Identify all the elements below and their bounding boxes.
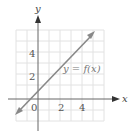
line-arrow-up-icon [87, 31, 95, 39]
function-label: y = f(x) [62, 63, 101, 74]
x-tick-4: 4 [79, 102, 85, 113]
x-axis-arrow-icon [112, 96, 120, 102]
y-axis-arrow-icon [35, 15, 41, 23]
graph: y x 0 2 4 4 2 y = f(x) [0, 0, 128, 139]
y-axis-label: y [34, 3, 41, 14]
x-axis-label: x [122, 93, 128, 104]
origin-label: 0 [31, 102, 37, 113]
x-tick-2: 2 [58, 102, 64, 113]
y-tick-4: 4 [29, 48, 35, 59]
y-axis [35, 15, 41, 131]
y-tick-2: 2 [29, 71, 35, 82]
